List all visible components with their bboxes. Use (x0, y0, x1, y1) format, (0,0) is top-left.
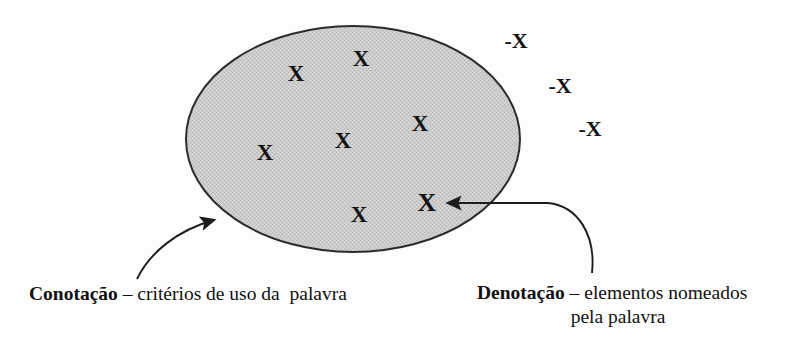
inside-x-mark: X (257, 141, 274, 164)
inside-x-mark: X (288, 62, 305, 85)
outside-x-mark: -X (504, 30, 527, 52)
denotation-term: Denotação (477, 282, 565, 303)
diagram-canvas: X X X X X X X -X -X -X Conotação – crité… (0, 0, 800, 343)
denotation-caption: Denotação – elementos nomeadospela palav… (477, 281, 777, 330)
inside-x-mark: X (335, 129, 352, 152)
connotation-separator: – (118, 283, 138, 304)
inside-x-mark: X (351, 203, 368, 226)
inside-x-mark: X (412, 112, 429, 135)
denotation-description-line-2: pela palavra (477, 305, 777, 329)
outside-x-mark: -X (548, 75, 571, 97)
denotation-separator: – (565, 282, 585, 303)
outside-x-mark: -X (578, 118, 601, 140)
inside-x-mark-targeted: X (418, 190, 437, 216)
denotation-description-line-1: elementos nomeados (584, 282, 747, 303)
connotation-arrow (137, 220, 214, 279)
inside-x-mark: X (353, 47, 370, 70)
connotation-description: critérios de uso da palavra (137, 283, 347, 304)
connotation-term: Conotação (29, 283, 118, 304)
connotation-caption: Conotação – critérios de uso da palavra (29, 282, 347, 306)
